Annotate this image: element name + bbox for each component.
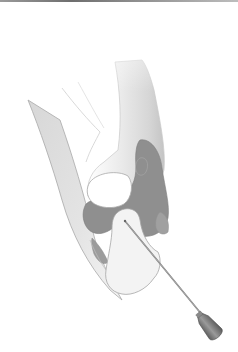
joint-injection-illustration [0,0,238,352]
condyle-upper [87,173,131,208]
needle-hub [192,308,225,342]
top-fade-overlay [0,2,238,92]
needle-tip [124,220,126,222]
